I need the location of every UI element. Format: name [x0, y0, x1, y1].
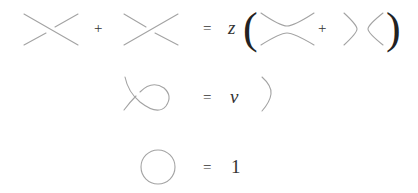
plus-operator: + [94, 21, 102, 36]
positive-crossing-diagram [24, 14, 78, 45]
open-paren: ( [243, 7, 258, 51]
plus-operator: + [318, 21, 326, 36]
straight-strand-diagram [262, 77, 271, 111]
negative-crossing-diagram [124, 14, 178, 45]
equals-sign: = [203, 21, 211, 36]
coefficient-z: z [228, 18, 235, 37]
close-paren: ) [386, 7, 401, 51]
horizontal-smoothing-diagram [261, 13, 314, 45]
vertical-smoothing-diagram [344, 13, 383, 45]
kink-curl-diagram [124, 77, 169, 110]
coefficient-v: v [230, 87, 238, 106]
equals-sign: = [203, 160, 211, 175]
equals-sign: = [203, 90, 211, 105]
unknot-circle-diagram [141, 150, 175, 184]
unknot-value: 1 [231, 157, 241, 176]
